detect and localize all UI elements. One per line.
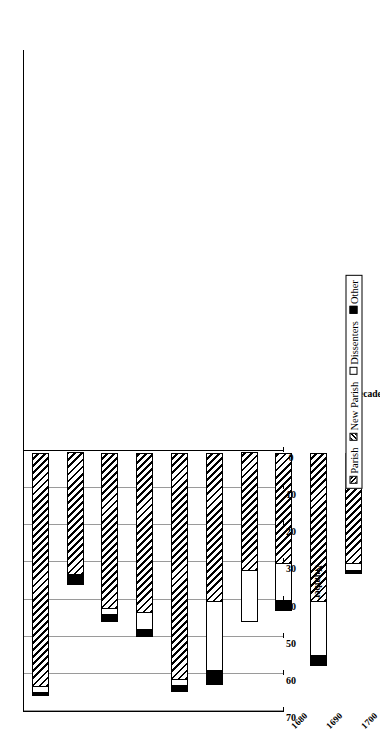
bar-segment-other xyxy=(310,655,327,666)
bar-segment-other xyxy=(206,670,223,685)
tick-20 xyxy=(283,521,284,526)
tick-0 xyxy=(283,447,284,452)
value-tick-label: 20 xyxy=(286,526,296,537)
value-tick-label: 0 xyxy=(289,452,294,463)
bar-1700 xyxy=(101,451,118,622)
bar-segment-dissenters xyxy=(206,601,223,672)
bar-segment-parish xyxy=(32,453,49,687)
legend-label: New Parish xyxy=(348,382,359,431)
gridline-60 xyxy=(23,673,283,674)
bar-segment-dissenters xyxy=(136,612,153,631)
bar-segment-dissenters xyxy=(310,601,327,657)
value-tick-label: 60 xyxy=(286,675,296,686)
bar-segment-parish xyxy=(67,452,84,575)
bar-1690 xyxy=(67,451,84,585)
bar-1740 xyxy=(241,451,258,622)
bar-segment-other xyxy=(67,574,84,585)
category-label-1690: 1690 xyxy=(324,710,344,730)
bar-1720 xyxy=(171,451,188,692)
legend-swatch-dissenters xyxy=(350,367,358,375)
bar-segment-dissenters xyxy=(32,686,49,693)
bar-segment-parish xyxy=(241,452,258,571)
gridline-70 xyxy=(23,710,283,711)
legend-item-dissenters: Dissenters xyxy=(348,321,359,375)
legend-swatch-parish xyxy=(350,476,358,484)
value-axis-title: Number xyxy=(313,565,323,599)
tick-30 xyxy=(283,558,284,563)
bar-segment-parish xyxy=(136,453,153,613)
value-tick-label: 40 xyxy=(286,601,296,612)
tick-50 xyxy=(283,633,284,638)
value-tick-label: 30 xyxy=(286,563,296,574)
bar-segment-dissenters xyxy=(171,679,188,686)
legend-label: Dissenters xyxy=(348,321,359,365)
bar-segment-parish xyxy=(171,453,188,680)
bar-segment-parish xyxy=(275,453,292,564)
chart-rotated-canvas: 010203040506070 168016901700171017201730… xyxy=(0,0,380,756)
legend-item-other: Other xyxy=(348,280,359,314)
category-label-1700: 1700 xyxy=(359,710,379,730)
legend-label: Other xyxy=(348,280,359,304)
bar-segment-other xyxy=(171,685,188,692)
bar-segment-parish xyxy=(206,453,223,602)
chart-figure: 010203040506070 168016901700171017201730… xyxy=(0,0,380,756)
value-tick-label: 50 xyxy=(286,638,296,649)
bar-1680 xyxy=(32,451,49,696)
tick-70 xyxy=(283,707,284,712)
bar-1760 xyxy=(310,451,327,666)
value-tick-label: 10 xyxy=(286,489,296,500)
bar-segment-other xyxy=(136,629,153,636)
legend-swatch-other xyxy=(350,306,358,314)
legend-swatch-newparish xyxy=(350,433,358,441)
legend-label: Parish xyxy=(348,448,359,474)
bar-1710 xyxy=(136,451,153,637)
plot-area xyxy=(23,50,283,712)
bar-segment-parish xyxy=(101,453,118,609)
bar-segment-other xyxy=(101,614,118,621)
legend-item-parish: Parish xyxy=(348,448,359,484)
bar-segment-dissenters xyxy=(101,608,118,615)
bar-segment-dissenters xyxy=(241,570,258,622)
tick-40 xyxy=(283,596,284,601)
chart-legend: ParishNew ParishDissentersOther xyxy=(345,275,362,489)
bar-1730 xyxy=(206,451,223,685)
legend-item-newparish: New Parish xyxy=(348,382,359,441)
tick-60 xyxy=(283,670,284,675)
bar-segment-dissenters xyxy=(345,563,362,570)
tick-10 xyxy=(283,484,284,489)
